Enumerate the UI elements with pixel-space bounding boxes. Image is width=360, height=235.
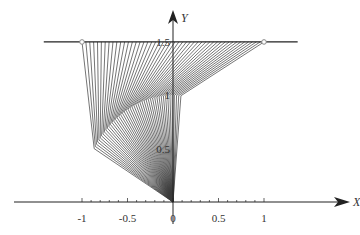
x-tick-label: 1 [261, 212, 267, 224]
x-tick-label: -1 [77, 212, 86, 224]
x-minor-ticks [82, 198, 264, 202]
y-axis-label: Y [181, 11, 189, 25]
diagram-canvas: X Y -1-0.500.51 0.511.5 [0, 0, 360, 235]
linkage-fan-diagram: X Y -1-0.500.51 0.511.5 [0, 0, 360, 235]
endpoint-marker-icon [262, 40, 267, 45]
y-tick-label: 0.5 [156, 143, 170, 155]
x-axis-label: X [352, 195, 360, 209]
x-tick-label: -0.5 [119, 212, 137, 224]
fan-line [173, 42, 260, 202]
x-tick-labels: -1-0.500.51 [77, 212, 266, 224]
endpoint-marker-icon [80, 40, 85, 45]
x-tick-label: 0.5 [212, 212, 226, 224]
fan-line [172, 42, 248, 202]
y-tick-label: 1 [165, 89, 171, 101]
x-tick-label: 0 [170, 212, 176, 224]
fan-line [170, 42, 245, 202]
fan-line [173, 42, 264, 202]
